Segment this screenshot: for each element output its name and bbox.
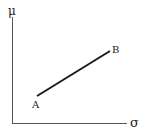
- x-axis-label: σ: [130, 115, 139, 130]
- mean-variance-diagram: μ σ A B: [0, 0, 148, 136]
- point-a-label: A: [31, 99, 40, 110]
- point-b-label: B: [112, 44, 119, 55]
- y-axis-label: μ: [8, 4, 16, 18]
- line-segment-ab: [37, 51, 110, 96]
